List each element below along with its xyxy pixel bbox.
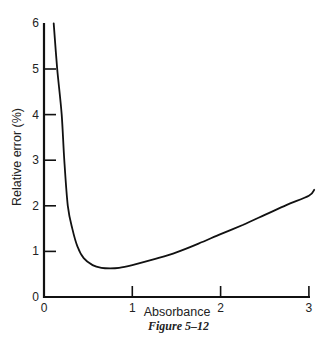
y-tick-label: 1 — [32, 244, 39, 258]
x-tick-label: 3 — [306, 301, 313, 315]
x-tick-label: 1 — [129, 301, 136, 315]
y-tick-label: 6 — [32, 16, 39, 30]
figure-caption: Figure 5–12 — [148, 319, 209, 334]
y-tick-label: 3 — [32, 153, 39, 167]
y-axis-title: Relative error (%) — [10, 108, 24, 206]
chart: 0123456 0123 Absorbance Relative error (… — [0, 0, 334, 357]
relative-error-curve — [54, 23, 315, 268]
x-tick-label: 2 — [217, 301, 224, 315]
y-tick-label: 0 — [32, 290, 39, 304]
y-tick-label: 4 — [32, 108, 39, 122]
y-tick-label: 5 — [32, 62, 39, 76]
axes: 0123456 0123 — [32, 16, 312, 315]
x-tick-label: 0 — [41, 301, 48, 315]
y-tick-label: 2 — [32, 199, 39, 213]
x-axis-title: Absorbance — [144, 305, 211, 319]
